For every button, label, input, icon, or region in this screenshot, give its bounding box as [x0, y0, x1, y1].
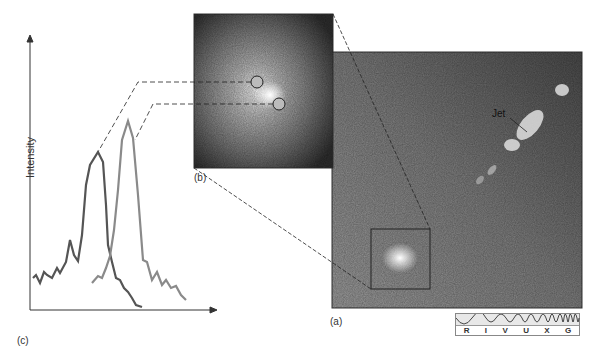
- marker-circle-1: [251, 76, 263, 88]
- jet-label: Jet: [492, 108, 505, 119]
- y-axis-label: Intensity: [24, 137, 36, 178]
- band-g: G: [565, 326, 571, 335]
- band-r: R: [464, 326, 470, 335]
- marker-circle-2: [273, 98, 285, 110]
- panel-b-image: [194, 14, 333, 168]
- band-i: I: [485, 326, 487, 335]
- band-v: V: [502, 326, 507, 335]
- band-x: X: [544, 326, 549, 335]
- curve-dark: [33, 152, 142, 307]
- figure-canvas: [0, 0, 600, 357]
- spectrum-bar: R I V U X G: [455, 313, 580, 336]
- band-u: U: [523, 326, 529, 335]
- panel-b-label: (b): [194, 172, 206, 183]
- panel-a-label: (a): [330, 316, 342, 327]
- panel-c-label: (c): [17, 335, 29, 346]
- panel-a-image: [332, 52, 582, 308]
